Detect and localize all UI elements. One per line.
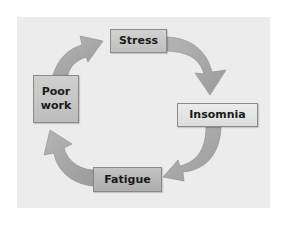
arrow-fatigue-to-poor-work xyxy=(44,130,93,186)
node-label: Poor work xyxy=(41,85,71,113)
node-insomnia: Insomnia xyxy=(177,103,258,127)
node-label: Insomnia xyxy=(189,108,246,122)
node-label: Fatigue xyxy=(104,173,151,187)
arrow-poor-work-to-stress xyxy=(53,36,103,75)
node-poor-work: Poor work xyxy=(33,75,79,123)
node-fatigue: Fatigue xyxy=(93,167,162,192)
node-label: Stress xyxy=(119,34,158,48)
arrow-insomnia-to-fatigue xyxy=(163,127,221,181)
arrow-stress-to-insomnia xyxy=(167,37,226,95)
node-stress: Stress xyxy=(110,29,167,53)
